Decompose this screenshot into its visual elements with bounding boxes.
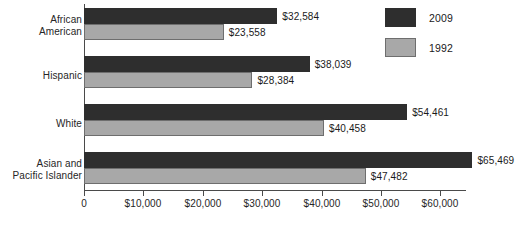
legend-label-1992: 1992 [429, 42, 453, 54]
bar-2009-hispanic [84, 56, 310, 72]
x-axis-tick-label-1: $10,000 [125, 198, 162, 209]
bar-value-1992-african-american: $23,558 [229, 27, 266, 38]
bar-value-2009-african-american: $32,584 [282, 11, 319, 22]
bar-value-1992-asian-pacific-islander: $47,482 [371, 171, 408, 182]
x-axis-tick-label-6: $60,000 [422, 198, 459, 209]
bar-1992-african-american [84, 24, 224, 40]
x-axis-tick-label-4: $40,000 [304, 198, 341, 209]
category-label-white: White [56, 118, 82, 130]
x-axis-tick-label-2: $20,000 [185, 198, 222, 209]
x-axis-tick-label-3: $30,000 [244, 198, 281, 209]
bar-1992-hispanic [84, 72, 252, 88]
x-axis-tick-1 [143, 190, 144, 196]
x-axis-tick-3 [262, 190, 263, 196]
x-axis-tick-6 [440, 190, 441, 196]
bar-value-1992-hispanic: $28,384 [257, 75, 294, 86]
legend-swatch-2009 [385, 8, 416, 27]
bar-2009-white [84, 104, 407, 120]
legend-swatch-1992 [385, 38, 416, 57]
x-axis-tick-label-0: 0 [81, 198, 87, 209]
bar-value-2009-white: $54,461 [412, 107, 449, 118]
bar-2009-african-american [84, 8, 277, 24]
category-label-african-american: African American [39, 14, 82, 37]
bar-value-2009-asian-pacific-islander: $65,469 [477, 155, 514, 166]
x-axis-tick-2 [203, 190, 204, 196]
legend-label-2009: 2009 [429, 12, 453, 24]
x-axis-tick-label-5: $50,000 [363, 198, 400, 209]
category-label-asian-pacific-islander: Asian and Pacific Islander [13, 158, 82, 181]
bar-chart: African American Hispanic White Asian an… [0, 0, 520, 227]
category-label-hispanic: Hispanic [43, 70, 82, 82]
bar-value-2009-hispanic: $38,039 [315, 59, 352, 70]
bar-2009-asian-pacific-islander [84, 152, 472, 168]
bar-1992-asian-pacific-islander [84, 168, 366, 184]
bar-1992-white [84, 120, 324, 136]
x-axis-tick-0 [84, 190, 85, 196]
x-axis-tick-4 [322, 190, 323, 196]
x-axis-line [84, 190, 466, 191]
x-axis-tick-5 [381, 190, 382, 196]
bar-value-1992-white: $40,458 [329, 123, 366, 134]
